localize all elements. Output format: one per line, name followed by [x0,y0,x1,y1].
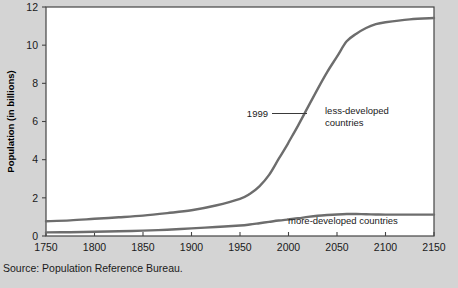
plot-background [46,7,434,236]
x-tick-label: 1800 [83,241,107,253]
y-tick-label: 6 [32,115,38,127]
year-marker-label: 1999 [247,108,268,119]
figure-container: 0246810121750180018501900195020002050210… [0,0,458,288]
more-developed-label: more-developed countries [288,215,398,226]
x-tick-label: 2100 [374,241,398,253]
y-axis-title: Population (in billions) [5,70,16,172]
y-tick-label: 0 [32,230,38,242]
x-tick-label: 1850 [131,241,155,253]
x-tick-label: 1900 [180,241,204,253]
y-tick-label: 4 [32,153,38,165]
x-tick-label: 2000 [277,241,301,253]
y-tick-label: 8 [32,77,38,89]
source-note: Source: Population Reference Bureau. [3,262,183,274]
x-tick-label: 1750 [34,241,58,253]
x-tick-label: 2050 [325,241,349,253]
y-axis-title-text: Population (in billions) [5,70,16,172]
x-tick-label: 1950 [228,241,252,253]
population-projection-chart: 0246810121750180018501900195020002050210… [0,0,458,288]
plot-area [46,7,434,236]
x-tick-label: 2150 [422,241,446,253]
y-tick-label: 12 [26,1,38,13]
y-tick-label: 2 [32,192,38,204]
y-tick-label: 10 [26,39,38,51]
